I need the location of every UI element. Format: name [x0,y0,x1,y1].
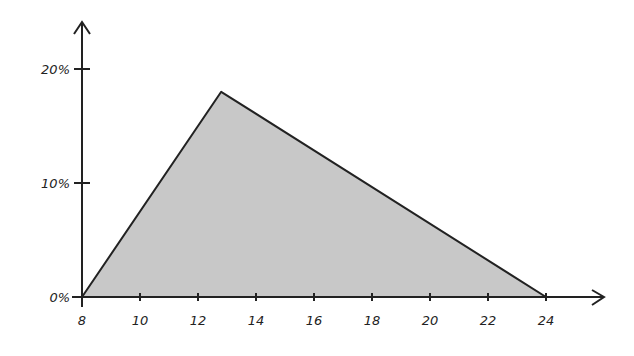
chart: 810121416182022240%10%20% [0,0,634,356]
y-tick-label: 20% [41,62,70,77]
x-tick-label: 14 [248,313,265,328]
x-tick-label: 22 [480,313,497,328]
x-tick-label: 18 [364,313,381,328]
x-tick-label: 10 [132,313,149,328]
x-tick-label: 20 [422,313,439,328]
x-tick-label: 24 [538,313,555,328]
x-tick-label: 16 [306,313,323,328]
y-tick-label: 0% [49,290,70,305]
x-tick-label: 8 [78,313,86,328]
y-tick-label: 10% [41,176,70,191]
plot-area: 810121416182022240%10%20% [41,22,604,328]
x-tick-label: 12 [190,313,207,328]
